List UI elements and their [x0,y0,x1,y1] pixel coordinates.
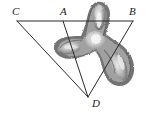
geometry-figure: C A B D [0,0,148,118]
figure-canvas [0,0,148,118]
vertex-label-a: A [60,6,67,17]
segment-CD [17,21,88,97]
vertex-label-b: B [129,6,136,17]
vertex-label-d: D [92,98,100,109]
vertex-label-c: C [12,6,19,17]
